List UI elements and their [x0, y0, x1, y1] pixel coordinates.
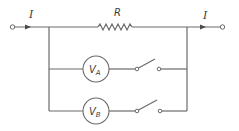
switch-b-blade-icon [139, 100, 158, 110]
current-in-label: I [28, 8, 34, 21]
switch-a-contact-left [135, 67, 139, 71]
circuit-diagram: I R I VA VB [0, 0, 239, 131]
resistor-label: R [114, 7, 121, 18]
current-arrow-left-icon [25, 25, 31, 30]
terminal-left [10, 25, 14, 29]
switch-a-blade-icon [139, 59, 156, 68]
switch-b-contact-left [135, 109, 139, 113]
current-out-label: I [202, 9, 208, 22]
branch-a [49, 56, 187, 82]
branch-b [49, 98, 187, 124]
switch-b-contact-right [158, 109, 162, 113]
resistor-icon [98, 24, 132, 30]
circuit-svg: I R I VA VB [0, 0, 239, 131]
switch-a-contact-right [157, 67, 161, 71]
terminal-right [220, 25, 224, 29]
current-arrow-right-icon [200, 25, 206, 30]
